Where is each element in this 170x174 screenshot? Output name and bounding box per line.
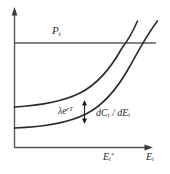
marginal-cost-base: dC (96, 107, 108, 118)
gap-arrow-head-bottom (82, 119, 87, 125)
upper-marginal-cost-curve (15, 21, 138, 107)
marginal-cost-label: dCt / dEt (96, 108, 130, 119)
marginal-cost-sub2: t (128, 111, 130, 118)
gap-label-sup: rT (67, 105, 73, 112)
e-axis-sub: t (152, 155, 154, 162)
e-star-sup: * (111, 151, 114, 158)
horizontal-axis-label: Et (146, 152, 154, 163)
horizontal-axis-arrowhead (145, 145, 154, 151)
gap-label: λerT (58, 106, 73, 116)
vertical-axis-arrowhead (12, 7, 18, 16)
e-star-label: Et* (103, 152, 114, 163)
gap-label-base: λe (58, 105, 67, 116)
gap-arrow-head-top (82, 100, 87, 106)
economics-figure: Pt λerT dCt / dEt Et* Et (0, 0, 170, 174)
price-label-base: P (52, 24, 59, 36)
figure-canvas (0, 0, 170, 174)
price-label-sub: t (59, 30, 61, 37)
price-line-label: Pt (52, 25, 61, 37)
marginal-cost-mid: / dE (109, 107, 128, 118)
lower-marginal-cost-curve (15, 21, 158, 128)
